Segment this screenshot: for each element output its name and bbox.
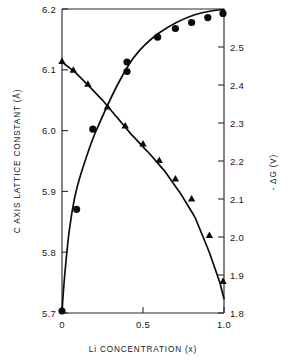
left-tick-label-5-9: 5.9 xyxy=(42,186,56,197)
left-axis-title: C AXIS LATTICE CONSTANT (Å) xyxy=(12,89,22,233)
data-point-circle-2 xyxy=(73,206,80,213)
left-tick-label-6-1: 6.1 xyxy=(42,64,56,75)
figure-container: 6.2 6.1 6.0 5.9 5.8 5.7 2.5 2.4 2.3 2.2 … xyxy=(0,0,291,362)
data-point-circle-9 xyxy=(204,14,211,21)
data-point-circle-6 xyxy=(154,34,161,41)
right-axis-title: - ΔG (V) xyxy=(269,154,278,190)
right-tick-label-2-3: 2.3 xyxy=(230,118,244,129)
right-tick-label-2-5: 2.5 xyxy=(230,42,244,53)
chart-svg: 6.2 6.1 6.0 5.9 5.8 5.7 2.5 2.4 2.3 2.2 … xyxy=(0,0,291,362)
data-point-circle-1 xyxy=(58,307,65,314)
data-point-circle-5 xyxy=(123,68,130,75)
left-tick-label-5-7: 5.7 xyxy=(42,308,56,319)
data-point-circle-7 xyxy=(172,25,179,32)
left-tick-label-6-2: 6.2 xyxy=(42,4,56,15)
right-tick-label-1-8: 1.8 xyxy=(230,308,244,319)
bottom-tick-label-0: 0 xyxy=(59,319,65,330)
data-point-circle-10 xyxy=(219,10,226,17)
bottom-tick-label-0-5: 0.5 xyxy=(136,319,150,330)
bottom-axis-title: Li CONCENTRATION (x) xyxy=(89,345,197,354)
left-tick-label-5-8: 5.8 xyxy=(42,247,56,258)
right-tick-label-2-1: 2.1 xyxy=(230,194,244,205)
right-tick-label-2-4: 2.4 xyxy=(230,80,244,91)
bottom-tick-label-1-0: 1.0 xyxy=(217,319,231,330)
right-tick-label-2-0: 2.0 xyxy=(230,232,244,243)
right-tick-label-2-2: 2.2 xyxy=(230,156,244,167)
data-point-circle-8 xyxy=(188,19,195,26)
left-tick-label-6-0: 6.0 xyxy=(42,125,56,136)
right-tick-label-1-9: 1.9 xyxy=(230,270,244,281)
data-point-circle-3 xyxy=(89,126,96,133)
data-point-circle-4 xyxy=(123,58,130,65)
